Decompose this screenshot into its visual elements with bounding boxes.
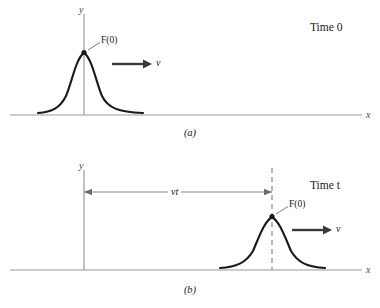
- x-axis-label-a: x: [366, 110, 370, 120]
- x-axis-label-b: x: [366, 265, 370, 275]
- velocity-label-a: v: [156, 58, 160, 68]
- peak-value-label-a: F(0): [101, 36, 117, 46]
- pulse-curve-a: [38, 53, 143, 113]
- velocity-label-b: v: [336, 224, 340, 234]
- caption-a: (a): [0, 128, 380, 139]
- y-axis-label-a: y: [79, 5, 83, 15]
- peak-value-label-b: F(0): [289, 200, 305, 210]
- velocity-arrow-b: [292, 226, 332, 235]
- distance-label-vt: vt: [168, 187, 181, 197]
- peak-leader-line-a: [88, 43, 100, 51]
- wave-pulse-figure: x y F(0) v Time 0 (a): [0, 0, 380, 308]
- time-label-a: Time 0: [310, 22, 343, 34]
- panel-b: x y vt F(0) v Time t (b): [0, 154, 380, 308]
- peak-leader-line-b: [276, 207, 288, 215]
- peak-marker-a: [81, 50, 86, 55]
- caption-b: (b): [0, 285, 380, 296]
- velocity-arrow-a: [112, 60, 152, 69]
- time-label-b: Time t: [310, 180, 340, 192]
- panel-a: x y F(0) v Time 0 (a): [0, 0, 380, 154]
- y-axis-label-b: y: [79, 161, 83, 171]
- peak-marker-b: [269, 214, 274, 219]
